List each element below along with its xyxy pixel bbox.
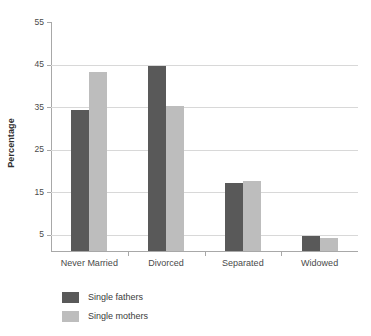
legend-label: Single mothers — [88, 311, 148, 321]
legend-label: Single fathers — [88, 292, 143, 302]
y-tick-label: 45 — [22, 60, 44, 69]
x-tick-mark — [128, 252, 129, 256]
y-tick-label: 25 — [22, 145, 44, 154]
legend-item: Single fathers — [62, 289, 148, 305]
legend-item: Single mothers — [62, 308, 148, 324]
y-tick-label: 15 — [22, 188, 44, 197]
bar — [89, 72, 107, 251]
y-tick-label: 5 — [22, 230, 44, 239]
y-tick-label: 55 — [22, 18, 44, 27]
bar-chart: Percentage 55453525155 Never MarriedDivo… — [0, 0, 371, 336]
bar — [71, 110, 89, 251]
bar — [320, 238, 338, 251]
x-tick-mark — [281, 252, 282, 256]
bar — [148, 66, 166, 251]
y-axis-line — [51, 22, 52, 252]
bar — [243, 181, 261, 251]
plot-area — [51, 22, 358, 252]
gridline — [51, 65, 358, 66]
x-tick-label: Separated — [222, 258, 264, 268]
bar — [166, 106, 184, 251]
bar — [302, 236, 320, 251]
legend-swatch-icon — [62, 311, 79, 322]
x-tick-label: Widowed — [301, 258, 338, 268]
x-tick-label: Never Married — [61, 258, 118, 268]
legend-swatch-icon — [62, 292, 79, 303]
x-tick-label: Divorced — [148, 258, 184, 268]
legend: Single fathers Single mothers — [62, 289, 148, 327]
bar — [225, 183, 243, 251]
y-tick-label: 35 — [22, 103, 44, 112]
x-tick-mark — [205, 252, 206, 256]
